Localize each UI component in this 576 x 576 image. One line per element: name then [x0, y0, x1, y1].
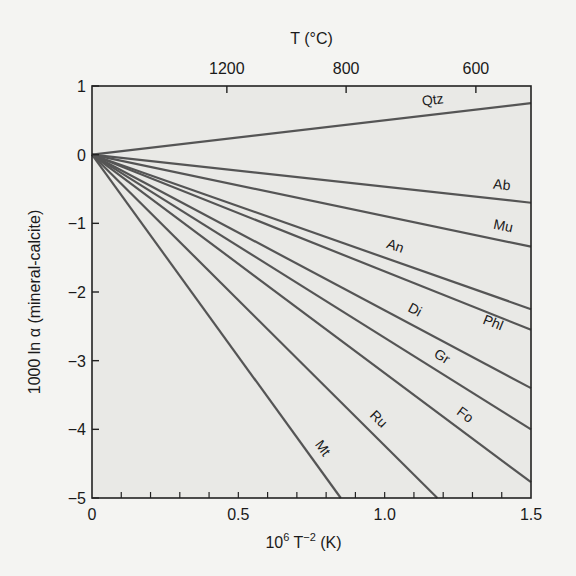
y-tick-label: −2	[68, 284, 86, 301]
top-tick-label: 1200	[209, 60, 245, 77]
y-tick-label: −3	[68, 353, 86, 370]
series-label-qtz: Qtz	[421, 90, 444, 108]
top-tick-label: 800	[333, 60, 360, 77]
x-axis-title: 106 T−2 (K)	[265, 531, 341, 551]
x-tick-label: 1.0	[374, 506, 396, 523]
top-tick-label: 600	[463, 60, 490, 77]
x-tick-label: 0.5	[227, 506, 249, 523]
y-axis-title: 1000 ln α (mineral-calcite)	[26, 210, 43, 394]
y-tick-label: −5	[68, 490, 86, 507]
top-axis-title: T (°C)	[290, 30, 333, 47]
y-tick-label: −4	[68, 421, 86, 438]
series-label-ab: Ab	[493, 176, 512, 194]
x-tick-label: 0	[88, 506, 97, 523]
y-tick-label: 1	[77, 78, 86, 95]
x-tick-label: 1.5	[520, 506, 542, 523]
y-tick-label: −1	[68, 215, 86, 232]
fractionation-chart: QtzAbMuAnPhlDiGrFoRuMt10−1−2−3−4−500.51.…	[0, 0, 576, 576]
y-tick-label: 0	[77, 147, 86, 164]
